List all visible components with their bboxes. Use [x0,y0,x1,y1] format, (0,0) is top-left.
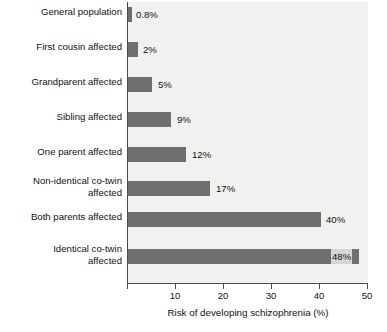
bar-value-label: 5% [158,77,172,92]
x-axis-title: Risk of developing schizophrenia (%) [128,307,368,318]
bar [128,212,321,227]
bar [128,77,152,92]
bar-value-label: 9% [177,112,191,127]
x-tick-label-40: 40 [304,290,334,302]
bar-value-label: 48% [331,249,352,264]
x-axis-line [127,283,368,284]
bar-row: General population 0.8% [0,6,387,36]
x-tick-20 [223,284,224,289]
category-label: General population [0,6,122,18]
category-label: Both parents affected [0,211,122,223]
bar [128,42,138,57]
category-label: Non-identical co-twin affected [0,175,122,198]
bar-chart-figure: General population 0.8% First cousin aff… [0,0,387,332]
bar-value-label: 0.8% [136,7,158,22]
category-label: First cousin affected [0,41,122,53]
x-tick-30 [271,284,272,289]
x-tick-40 [319,284,320,289]
bar-row: Both parents affected 40% [0,211,387,241]
x-tick-label-50: 50 [352,290,382,302]
bar [128,249,359,264]
bar-row: First cousin affected 2% [0,41,387,71]
x-tick-label-30: 30 [256,290,286,302]
x-tick-label-10: 10 [160,290,190,302]
bar-value-label: 40% [326,212,345,227]
bar-value-label: 2% [143,42,157,57]
bar [128,7,132,22]
bar [128,181,210,196]
bar-row: Grandparent affected 5% [0,76,387,106]
x-tick-0 [127,284,128,289]
bar-row: Non-identical co-twin affected 17% [0,175,387,205]
x-tick-50 [367,284,368,289]
bar-row: Sibling affected 9% [0,111,387,141]
bar-value-label: 12% [192,147,211,162]
category-label: Identical co-twin affected [0,243,122,266]
bar-row: One parent affected 12% [0,146,387,176]
category-label: Sibling affected [0,111,122,123]
category-label: Grandparent affected [0,76,122,88]
category-label: One parent affected [0,146,122,158]
bar [128,112,171,127]
bar [128,147,186,162]
bar-value-label: 17% [216,181,235,196]
bar-row: Identical co-twin affected 48% [0,243,387,273]
x-tick-10 [175,284,176,289]
x-tick-label-20: 20 [208,290,238,302]
